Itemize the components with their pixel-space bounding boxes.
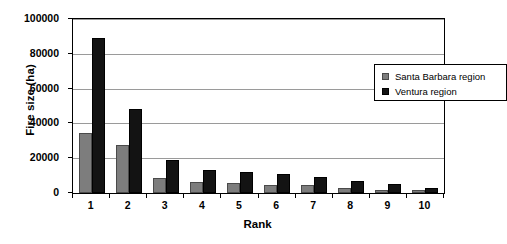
x-tick-mark <box>183 193 184 198</box>
x-tick-mark <box>146 193 147 198</box>
x-tick-mark <box>406 193 407 198</box>
plot-area: Santa Barbara region Ventura region <box>72 18 445 194</box>
x-axis-tick-labels: 12345678910 <box>72 199 443 215</box>
bar-ventura-rank-5 <box>240 172 253 193</box>
legend-item-santa-barbara: Santa Barbara region <box>382 70 506 83</box>
x-tick-mark <box>295 193 296 198</box>
bar-group <box>259 19 296 193</box>
bar-santa-barbara-rank-1 <box>79 133 92 193</box>
bar-santa-barbara-rank-7 <box>301 185 314 193</box>
x-tick-label: 2 <box>125 199 131 211</box>
bar-group <box>73 19 110 193</box>
x-tick-mark <box>369 193 370 198</box>
x-tick-label: 5 <box>236 199 242 211</box>
bar-series-container <box>73 19 444 193</box>
y-tick-label: 20000 <box>4 152 64 162</box>
x-tick-mark <box>220 193 221 198</box>
bar-santa-barbara-rank-5 <box>227 183 240 193</box>
x-tick-mark <box>72 193 73 198</box>
bar-group <box>110 19 147 193</box>
x-tick-mark <box>109 193 110 198</box>
y-tick-label: 0 <box>4 187 64 197</box>
bar-ventura-rank-4 <box>203 170 216 193</box>
x-tick-label: 9 <box>384 199 390 211</box>
y-tick-label: 100000 <box>4 13 64 23</box>
bar-santa-barbara-rank-3 <box>153 178 166 193</box>
x-tick-label: 6 <box>273 199 279 211</box>
legend-swatch-ventura-icon <box>382 88 389 95</box>
bar-ventura-rank-3 <box>166 160 179 193</box>
legend-label-santa-barbara: Santa Barbara region <box>395 71 485 82</box>
legend-item-ventura: Ventura region <box>382 85 506 98</box>
bar-ventura-rank-1 <box>92 38 105 193</box>
y-axis-tick-labels: 020000400006000080000100000 <box>4 18 64 192</box>
x-tick-label: 7 <box>310 199 316 211</box>
bar-santa-barbara-rank-6 <box>264 185 277 193</box>
bar-group <box>184 19 221 193</box>
legend-label-ventura: Ventura region <box>395 86 457 97</box>
y-tick-label: 80000 <box>4 48 64 58</box>
bar-ventura-rank-6 <box>277 174 290 193</box>
bar-group <box>333 19 370 193</box>
legend-swatch-santa-barbara-icon <box>382 73 389 80</box>
bar-ventura-rank-9 <box>388 184 401 193</box>
x-tick-label: 3 <box>162 199 168 211</box>
y-tick-label: 40000 <box>4 117 64 127</box>
bar-ventura-rank-8 <box>351 181 364 193</box>
bar-ventura-rank-2 <box>129 109 142 193</box>
x-tick-mark <box>258 193 259 198</box>
bar-group <box>407 19 444 193</box>
x-tick-label: 1 <box>88 199 94 211</box>
x-tick-label: 8 <box>347 199 353 211</box>
bar-santa-barbara-rank-4 <box>190 182 203 193</box>
y-tick-label: 60000 <box>4 83 64 93</box>
chart-legend: Santa Barbara region Ventura region <box>374 64 507 101</box>
x-tick-mark <box>443 193 444 198</box>
x-axis-title: Rank <box>72 218 443 230</box>
bar-group <box>296 19 333 193</box>
bar-group <box>370 19 407 193</box>
bar-ventura-rank-7 <box>314 177 327 193</box>
bar-group <box>147 19 184 193</box>
x-tick-mark <box>332 193 333 198</box>
x-tick-label: 10 <box>419 199 431 211</box>
bar-santa-barbara-rank-2 <box>116 145 129 193</box>
bar-group <box>221 19 258 193</box>
x-tick-label: 4 <box>199 199 205 211</box>
